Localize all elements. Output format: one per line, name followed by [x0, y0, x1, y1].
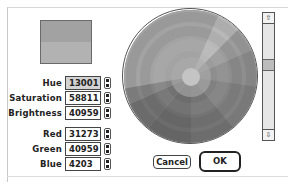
arrow-up-icon — [106, 145, 109, 148]
blue-row: Blue — [0, 157, 62, 172]
arrow-up-icon — [106, 109, 109, 112]
brightness-stepper[interactable] — [104, 107, 111, 119]
new-color-swatch — [41, 21, 91, 42]
arrow-down-icon — [106, 84, 109, 87]
scroll-up-arrow-icon[interactable]: ⇧ — [263, 13, 274, 24]
arrow-up-icon — [106, 94, 109, 97]
saturation-field[interactable]: 58811 — [65, 91, 101, 105]
scroll-thumb[interactable] — [263, 59, 274, 71]
window-bottom-edge — [7, 176, 288, 177]
saturation-stepper[interactable] — [104, 92, 111, 104]
red-field[interactable]: 31273 — [65, 127, 101, 141]
green-stepper[interactable] — [104, 143, 111, 155]
arrow-down-icon — [106, 165, 109, 168]
blue-label: Blue — [0, 159, 62, 169]
arrow-up-icon — [106, 130, 109, 133]
arrow-down-icon — [106, 150, 109, 153]
hue-row: Hue — [0, 76, 62, 91]
saturation-label: Saturation — [0, 93, 62, 103]
green-row: Green — [0, 142, 62, 157]
scroll-down-arrow-icon[interactable]: ⇩ — [263, 129, 274, 140]
color-wheel-graphic — [123, 9, 258, 144]
saturation-row: Saturation — [0, 91, 62, 106]
hue-stepper[interactable] — [104, 77, 111, 89]
original-color-swatch — [41, 42, 91, 63]
arrow-up-icon — [106, 160, 109, 163]
color-swatch — [40, 20, 92, 64]
brightness-label: Brightness — [0, 108, 62, 118]
color-wheel[interactable] — [122, 8, 258, 144]
brightness-field[interactable]: 40959 — [65, 106, 101, 120]
arrow-down-icon — [106, 135, 109, 138]
red-label: Red — [0, 129, 62, 139]
arrow-down-icon — [106, 99, 109, 102]
blue-stepper[interactable] — [104, 158, 111, 170]
brightness-scrollbar[interactable]: ⇧ ⇩ — [262, 12, 275, 141]
ok-button[interactable]: OK — [199, 151, 241, 172]
hue-field[interactable]: 13001 — [65, 76, 101, 90]
green-field[interactable]: 40959 — [65, 142, 101, 156]
arrow-up-icon — [106, 79, 109, 82]
blue-field[interactable]: 4203 — [65, 157, 101, 171]
red-row: Red — [0, 127, 62, 142]
arrow-down-icon — [106, 114, 109, 117]
cancel-button[interactable]: Cancel — [153, 155, 191, 169]
green-label: Green — [0, 144, 62, 154]
hue-label: Hue — [0, 78, 62, 88]
red-stepper[interactable] — [104, 128, 111, 140]
brightness-row: Brightness — [0, 106, 62, 121]
